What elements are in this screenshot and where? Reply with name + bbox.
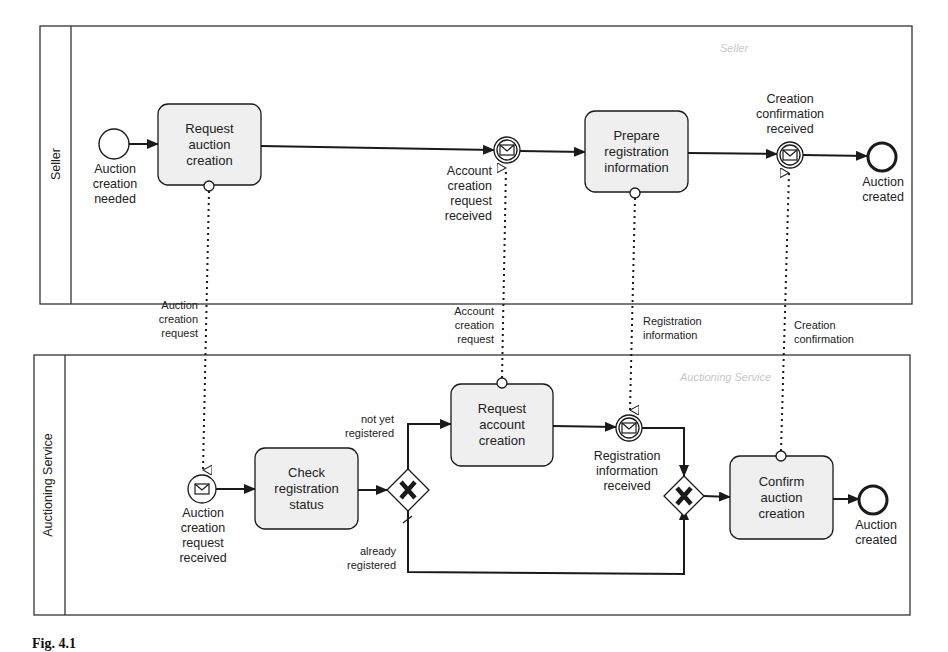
- message-flow-creation-confirmation: [781, 173, 789, 451]
- catch-registration-info-event: [616, 415, 642, 441]
- figure-caption: Fig. 4.1: [32, 636, 76, 652]
- catch-account-request-label: Account creation request received: [420, 164, 492, 224]
- branch-label-not-yet-registered: not yet registered: [330, 412, 394, 440]
- message-flow-auction-creation-request: [203, 191, 209, 470]
- msg-label-account-creation-request: Account creation request: [430, 304, 494, 346]
- seller-start-event-label: Auction creation needed: [80, 162, 150, 207]
- auctioning-start-event-label: Auction creation request received: [165, 506, 241, 566]
- catch-account-request-event: [494, 137, 520, 163]
- lane-label-auctioning-service: Auctioning Service: [41, 425, 55, 545]
- exclusive-gateway-split: [387, 469, 429, 511]
- pool-ghost-label-auctioning: Auctioning Service: [680, 371, 771, 383]
- lane-label-seller: Seller: [49, 134, 63, 194]
- msg-label-creation-confirmation: Creation confirmation: [794, 318, 884, 346]
- message-flow-account-creation-request: [502, 168, 506, 378]
- auctioning-end-event-label: Auction created: [843, 518, 909, 548]
- auctioning-end-event: [859, 486, 887, 514]
- seller-end-event-label: Auction created: [850, 175, 916, 205]
- seller-end-event: [868, 143, 896, 171]
- task-prepare-registration-label: Prepare registration information: [585, 111, 688, 192]
- msg-label-registration-information: Registration information: [643, 314, 733, 342]
- msg-label-auction-creation-request: Auction creation request: [140, 298, 198, 340]
- catch-creation-confirmation-event: [777, 142, 803, 168]
- task-request-auction-label: Request auction creation: [158, 104, 261, 185]
- task-confirm-auction-label: Confirm auction creation: [730, 456, 833, 539]
- task-check-registration-label: Check registration status: [255, 448, 358, 529]
- catch-creation-confirmation-label: Creation confirmation received: [740, 92, 840, 137]
- task-request-account-label: Request account creation: [451, 384, 553, 466]
- catch-registration-info-label: Registration information received: [572, 449, 682, 494]
- seller-start-event: [99, 129, 129, 159]
- branch-label-already-registered: already registered: [330, 544, 396, 572]
- pool-ghost-label-seller: Seller: [720, 42, 748, 54]
